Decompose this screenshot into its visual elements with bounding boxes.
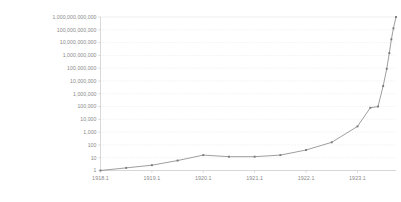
- gridlines: [101, 17, 397, 171]
- y-axis-tick-label: 1,000,000: [73, 91, 97, 97]
- data-point-marker: [177, 160, 179, 162]
- x-axis-tick-label: 1921.1: [246, 175, 263, 181]
- y-axis-tick-label: 10,000: [80, 116, 96, 122]
- y-axis-tick-label: 10: [91, 155, 97, 161]
- data-point-marker: [369, 107, 371, 109]
- y-axis-tick-label: 100,000: [77, 103, 96, 109]
- y-axis-tick-labels: 1,000,000,000,000100,000,000,00010,000,0…: [52, 14, 96, 174]
- data-point-marker: [377, 106, 379, 108]
- data-point-marker: [125, 167, 127, 169]
- data-point-marker: [254, 156, 256, 158]
- data-point-marker: [392, 27, 394, 29]
- data-point-marker: [331, 141, 333, 143]
- x-axis-tick-labels: 1918.11919.11920.11921.11922.11923.1: [92, 175, 366, 181]
- data-point-marker: [395, 16, 397, 18]
- x-axis-tick-label: 1922.1: [298, 175, 315, 181]
- data-point-marker: [228, 156, 230, 158]
- y-axis-tick-label: 1,000,000,000,000: [52, 14, 96, 20]
- x-axis-tick-label: 1919.1: [143, 175, 160, 181]
- y-axis-tick-label: 1,000,000,000: [63, 52, 97, 58]
- data-point-marker: [388, 52, 390, 54]
- hyperinflation-log-line-chart: 1,000,000,000,000100,000,000,00010,000,0…: [0, 0, 401, 202]
- data-point-marker: [386, 68, 388, 70]
- x-axis-tick-label: 1918.1: [92, 175, 109, 181]
- series-line-price-index: [101, 17, 397, 171]
- y-axis-tick-label: 100: [88, 142, 97, 148]
- x-axis-tick-label: 1920.1: [195, 175, 212, 181]
- data-point-marker: [390, 38, 392, 40]
- x-axis-tick-label: 1923.1: [349, 175, 366, 181]
- data-point-marker: [357, 125, 359, 127]
- data-point-marker: [279, 154, 281, 156]
- y-axis-tick-label: 100,000,000: [67, 65, 96, 71]
- y-axis-tick-label: 1,000: [83, 129, 96, 135]
- data-point-marker: [305, 149, 307, 151]
- data-point-marker: [202, 154, 204, 156]
- data-point-marker: [100, 170, 102, 172]
- y-axis-tick-label: 10,000,000,000: [60, 39, 97, 45]
- y-axis-tick-label: 100,000,000,000: [57, 27, 97, 33]
- y-axis-tick-label: 1: [94, 167, 97, 173]
- y-axis-tick-label: 10,000,000: [70, 78, 97, 84]
- data-point-marker: [151, 164, 153, 166]
- data-point-marker: [382, 85, 384, 87]
- chart-canvas: 1,000,000,000,000100,000,000,00010,000,0…: [0, 0, 401, 202]
